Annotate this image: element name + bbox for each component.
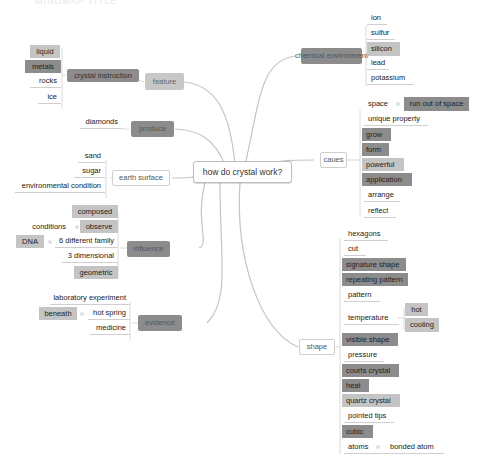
leaf-composed[interactable]: composed bbox=[72, 205, 118, 218]
leaf-metals[interactable]: metals bbox=[25, 60, 61, 73]
leaf-label: geometric bbox=[80, 269, 113, 277]
leaf-arrange[interactable]: arrange bbox=[364, 188, 400, 202]
leaf-label: visible shape bbox=[346, 336, 389, 344]
leaf-sugar[interactable]: sugar bbox=[74, 165, 105, 178]
leaf-label: environmental condition bbox=[22, 182, 101, 190]
leaf-dna[interactable]: DNA bbox=[16, 235, 44, 248]
leaf-label: bonded atom bbox=[390, 443, 434, 451]
leaf-cooling[interactable]: cooling bbox=[405, 318, 439, 332]
leaf-pattern[interactable]: pattern bbox=[344, 288, 380, 302]
leaf-label: liquid bbox=[36, 48, 54, 56]
leaf-repeating-pattern[interactable]: repeating pattern bbox=[342, 273, 408, 286]
leaf-liquid[interactable]: liquid bbox=[30, 45, 60, 58]
leaf-label: pattern bbox=[348, 291, 371, 299]
leaf-label: hot bbox=[411, 306, 421, 314]
leaf-grow[interactable]: grow bbox=[362, 128, 391, 141]
branch-caues[interactable]: caues bbox=[320, 152, 347, 168]
leaf-application[interactable]: application bbox=[362, 173, 412, 186]
leaf-space[interactable]: space bbox=[364, 97, 392, 110]
leaf-label: unique property bbox=[368, 115, 420, 123]
leaf-diamonds[interactable]: diamonds bbox=[80, 116, 122, 129]
branch-evidence[interactable]: evidence bbox=[138, 315, 182, 331]
branch-shape[interactable]: shape bbox=[299, 339, 335, 355]
leaf-label: metals bbox=[32, 63, 54, 71]
branch-caues-label: caues bbox=[324, 156, 344, 164]
crystal-instruction-label: crystal instruction bbox=[74, 72, 132, 80]
leaf-hot[interactable]: hot bbox=[405, 303, 428, 316]
leaf-label: cooling bbox=[410, 321, 434, 329]
leaf-label: lead bbox=[371, 59, 385, 67]
leaf-label: hot spring bbox=[93, 309, 126, 317]
leaf-label: beneath bbox=[44, 310, 71, 318]
leaf-ion[interactable]: ion bbox=[367, 12, 387, 25]
leaf-medicine[interactable]: medicine bbox=[90, 322, 130, 335]
leaf-signature-shape[interactable]: signature shape bbox=[342, 258, 406, 271]
leaf-label: signature shape bbox=[346, 261, 399, 269]
leaf-label: reflect bbox=[368, 207, 388, 215]
branch-influence-label: influence bbox=[133, 245, 163, 253]
leaf-label: ion bbox=[371, 14, 381, 22]
leaf-courts-crystal[interactable]: courts crystal bbox=[342, 364, 399, 377]
branch-earth-surface-label: earth surface bbox=[119, 174, 163, 182]
leaf-visible-shape[interactable]: visible shape bbox=[342, 333, 398, 346]
root-node[interactable]: how do crystal work? bbox=[193, 161, 292, 183]
leaf-pointed-tips[interactable]: pointed tips bbox=[344, 409, 394, 423]
leaf-label: composed bbox=[78, 208, 113, 216]
leaf-form[interactable]: form bbox=[362, 143, 389, 156]
leaf-temperature[interactable]: temperature bbox=[344, 311, 399, 325]
leaf-run-out-of-space[interactable]: run out of space bbox=[404, 97, 469, 111]
leaf-pressure[interactable]: pressure bbox=[344, 348, 384, 362]
branch-influence[interactable]: influence bbox=[127, 241, 170, 257]
leaf-label: sulfur bbox=[371, 29, 389, 37]
leaf-hot-spring[interactable]: hot spring bbox=[88, 307, 130, 320]
connector-dot bbox=[75, 225, 79, 229]
leaf-conditions[interactable]: conditions bbox=[30, 220, 70, 233]
leaf-sulfur[interactable]: sulfur bbox=[367, 27, 395, 40]
connector-dot bbox=[80, 312, 84, 316]
leaf-label: arrange bbox=[368, 191, 394, 199]
leaf-silicon[interactable]: silicon bbox=[367, 42, 400, 56]
connector-dot bbox=[396, 102, 400, 106]
leaf-laboratory-experiment[interactable]: laboratory experiment bbox=[50, 292, 130, 305]
leaf-ice[interactable]: ice bbox=[38, 91, 61, 104]
leaf-cut[interactable]: cut bbox=[344, 243, 366, 256]
leaf-label: rocks bbox=[39, 77, 57, 85]
leaf-6-different-family[interactable]: 6 different family bbox=[55, 235, 118, 248]
leaf-bonded-atom[interactable]: bonded atom bbox=[386, 440, 442, 453]
leaf-beneath[interactable]: beneath bbox=[39, 307, 77, 320]
leaf-label: diamonds bbox=[85, 118, 118, 126]
leaf-geometric[interactable]: geometric bbox=[74, 266, 118, 279]
branch-chemical-environment[interactable]: chemical environment bbox=[301, 48, 362, 64]
leaf-label: pressure bbox=[348, 351, 377, 359]
leaf-label: temperature bbox=[348, 314, 388, 322]
leaf-rocks[interactable]: rocks bbox=[30, 75, 61, 88]
leaf-sand[interactable]: sand bbox=[78, 150, 105, 163]
leaf-powerful[interactable]: powerful bbox=[362, 158, 404, 171]
branch-earth-surface[interactable]: earth surface bbox=[112, 170, 170, 186]
connector-dot bbox=[48, 240, 52, 244]
leaf-potassium[interactable]: potassium bbox=[367, 72, 414, 85]
leaf-environmental-condition[interactable]: environmental condition bbox=[15, 180, 105, 193]
branch-produce[interactable]: produce bbox=[131, 121, 174, 137]
leaf-lead[interactable]: lead bbox=[367, 57, 389, 70]
leaf-cubic[interactable]: cubic bbox=[342, 425, 373, 438]
leaf-label: sand bbox=[85, 152, 101, 160]
leaf-unique-property[interactable]: unique property bbox=[364, 112, 428, 126]
leaf-heat[interactable]: heat bbox=[342, 379, 369, 392]
leaf-label: conditions bbox=[32, 223, 66, 231]
leaf-hexagons[interactable]: hexagons bbox=[344, 228, 388, 241]
node-crystal-instruction[interactable]: crystal instruction bbox=[67, 69, 139, 82]
branch-feature[interactable]: feature bbox=[145, 73, 184, 90]
branch-shape-label: shape bbox=[307, 343, 327, 351]
leaf-reflect[interactable]: reflect bbox=[364, 204, 396, 218]
branch-evidence-label: evidence bbox=[145, 319, 175, 327]
leaf-label: courts crystal bbox=[346, 367, 390, 375]
leaf-observe[interactable]: observe bbox=[80, 220, 118, 233]
leaf-3-dimensional[interactable]: 3 dimensional bbox=[62, 250, 118, 263]
leaf-quartz-crystal[interactable]: quartz crystal bbox=[342, 394, 400, 407]
leaf-label: form bbox=[366, 146, 381, 154]
leaf-label: heat bbox=[346, 382, 361, 390]
leaf-label: quartz crystal bbox=[346, 397, 391, 405]
branch-chemical-environment-label: chemical environment bbox=[295, 52, 368, 60]
leaf-label: potassium bbox=[371, 74, 405, 82]
